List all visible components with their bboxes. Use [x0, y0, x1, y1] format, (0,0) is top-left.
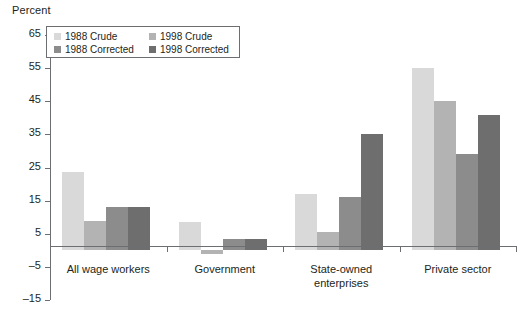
y-tick-label: 55 [29, 60, 41, 72]
y-tick-mark [45, 300, 50, 301]
y-tick-label: 45 [29, 93, 41, 105]
bar [361, 134, 383, 250]
bar [478, 115, 500, 251]
x-tick-mark [167, 246, 168, 252]
x-tick-mark [400, 246, 401, 252]
bar [245, 239, 267, 251]
y-tick-label: 35 [29, 126, 41, 138]
y-tick-mark [45, 201, 50, 202]
bar [128, 207, 150, 250]
bar [223, 239, 245, 251]
legend-item: 1998 Corrected [149, 44, 229, 55]
x-tick-mark [516, 246, 517, 252]
y-tick-label: 5 [35, 226, 41, 238]
legend-swatch-icon [54, 46, 61, 53]
bar [339, 197, 361, 250]
bar [456, 154, 478, 250]
bar [295, 194, 317, 250]
bar [317, 232, 339, 250]
y-tick-mark [45, 234, 50, 235]
legend-swatch-icon [149, 33, 156, 40]
legend-swatch-icon [54, 33, 61, 40]
legend-label: 1988 Crude [65, 31, 117, 42]
y-tick-label: 65 [29, 27, 41, 39]
x-category-label: Private sector [400, 262, 517, 276]
bar [62, 172, 84, 250]
y-tick-label: –15 [23, 292, 41, 304]
y-tick-label: 15 [29, 193, 41, 205]
y-tick-label: –5 [29, 259, 41, 271]
x-tick-mark [283, 246, 284, 252]
legend-label: 1998 Crude [160, 31, 212, 42]
y-axis-line [50, 30, 51, 300]
legend-label: 1998 Corrected [160, 44, 229, 55]
legend-item: 1988 Crude [54, 31, 117, 42]
plot-area: 6555453525155–5–15 All wage workersGover… [50, 30, 516, 300]
x-category-label: All wage workers [50, 262, 167, 276]
chart-legend: 1988 Crude1998 Crude1988 Corrected1998 C… [46, 26, 240, 58]
bar [201, 250, 223, 253]
bar [106, 207, 128, 250]
x-category-label: State-owned enterprises [283, 262, 400, 290]
y-tick-mark [45, 68, 50, 69]
legend-swatch-icon [149, 46, 156, 53]
legend-item: 1998 Crude [149, 31, 212, 42]
y-axis-title: Percent [12, 4, 51, 16]
y-tick-mark [45, 101, 50, 102]
bar [412, 68, 434, 250]
x-category-label: Government [167, 262, 284, 276]
chart-root: Percent 6555453525155–5–15 All wage work… [0, 0, 530, 317]
legend-item: 1988 Corrected [54, 44, 134, 55]
y-tick-label: 25 [29, 160, 41, 172]
legend-label: 1988 Corrected [65, 44, 134, 55]
y-tick-mark [45, 168, 50, 169]
bar [434, 101, 456, 250]
y-tick-mark [45, 134, 50, 135]
